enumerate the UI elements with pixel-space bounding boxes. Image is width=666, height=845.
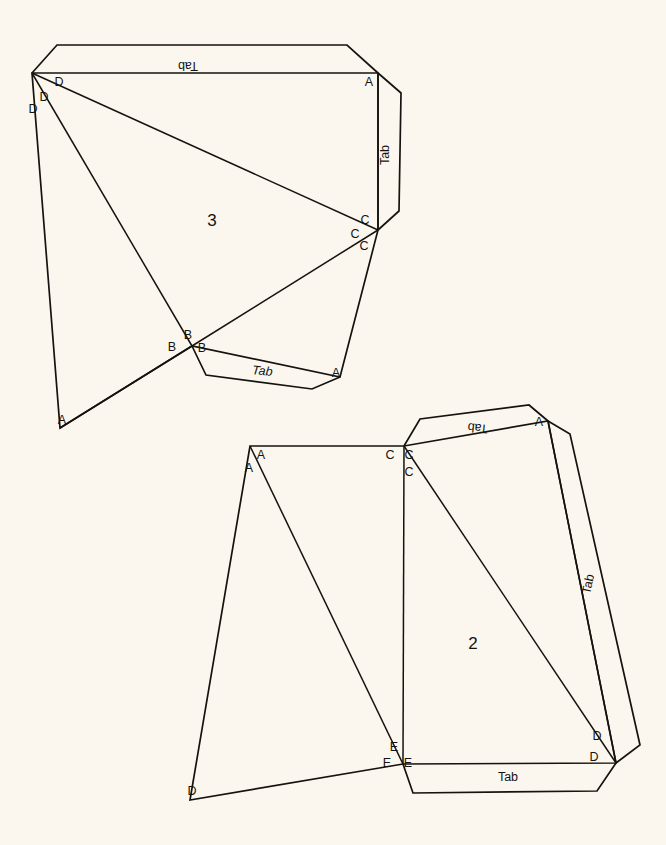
net-2-tab-right: Tab bbox=[548, 421, 640, 763]
net-2-vertex-label-e-2: E bbox=[383, 756, 391, 770]
net-2-vertex-label-e-1: E bbox=[390, 740, 398, 754]
net-3-vertex-label-d-2: D bbox=[39, 90, 48, 104]
net-3-vertex-label-b-3: B bbox=[198, 341, 206, 355]
net-3-tab-bottom: Tab bbox=[192, 346, 340, 389]
net-2-face-number: 2 bbox=[468, 634, 477, 653]
net-2-tab-bottom: Tab bbox=[403, 763, 616, 793]
net-3-vertex-label-b-2: B bbox=[168, 340, 176, 354]
net-2-vertex-label-d-left: D bbox=[187, 784, 196, 798]
net-3-tab-right: Tab bbox=[378, 73, 401, 230]
net-3-crease-b-to-a-left bbox=[60, 346, 192, 428]
net-2-vertex-label-a-2: A bbox=[245, 461, 254, 475]
net-3-vertex-label-d-1: D bbox=[54, 75, 63, 89]
net-3-vertex-label-c-1: C bbox=[360, 213, 369, 227]
net-2-vertex-label-d-2: D bbox=[589, 750, 598, 764]
net-2-vertex-label-a-tab: A bbox=[535, 415, 544, 429]
net-3-tab-top-label: Tab bbox=[178, 59, 198, 73]
net-3-tab-top: Tab bbox=[32, 45, 378, 73]
net-drawing-canvas: TabTabTabTabTabTabDDDACCCBBBAA3AACCCADDE… bbox=[0, 0, 666, 845]
net-2: TabTabTab bbox=[190, 405, 640, 800]
net-2-vertex-label-c-3: C bbox=[404, 465, 413, 479]
net-2-tab-bottom-label: Tab bbox=[498, 770, 518, 784]
net-3: TabTabTab bbox=[32, 45, 401, 428]
net-3-face-number: 3 bbox=[207, 211, 216, 230]
net-3-vertex-label-a-left: A bbox=[58, 413, 67, 427]
net-3-tab-bottom-label: Tab bbox=[252, 363, 274, 379]
net-3-crease-b-to-c bbox=[192, 230, 378, 346]
net-3-tab-top-outline bbox=[32, 45, 378, 73]
net-2-crease-c-to-e bbox=[403, 446, 404, 764]
net-3-vertex-label-a-bottom: A bbox=[332, 366, 341, 380]
net-3-crease-d-to-c bbox=[32, 73, 378, 230]
net-2-vertex-label-d-1: D bbox=[592, 729, 601, 743]
net-2-vertex-label-c-1: C bbox=[385, 448, 394, 462]
net-3-crease-d-to-b bbox=[32, 73, 192, 346]
net-3-vertex-label-c-2: C bbox=[350, 227, 359, 241]
net-3-vertex-label-a-top: A bbox=[365, 75, 374, 89]
net-3-vertex-label-b-1: B bbox=[184, 328, 192, 342]
net-3-tab-right-label: Tab bbox=[378, 145, 392, 165]
net-2-vertex-label-c-2: C bbox=[404, 448, 413, 462]
net-2-vertex-label-e-3: E bbox=[404, 756, 412, 770]
net-2-crease-a-to-e bbox=[250, 446, 403, 764]
net-3-vertex-label-c-3: C bbox=[359, 239, 368, 253]
net-3-vertex-label-d-3: D bbox=[28, 102, 37, 116]
net-2-tab-right-outline bbox=[548, 421, 640, 763]
net-2-vertex-label-a-1: A bbox=[257, 448, 266, 462]
net-template-sheet: TabTabTabTabTabTabDDDACCCBBBAA3AACCCADDE… bbox=[0, 0, 666, 845]
